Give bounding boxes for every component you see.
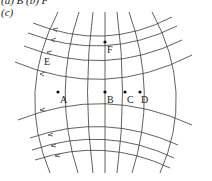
- point-labels: A B C D E F: [44, 44, 148, 105]
- arrow-left-icon: [40, 72, 45, 76]
- label-d: D: [141, 94, 148, 105]
- arrow-left-icon: [48, 133, 53, 136]
- field-diagram: A B C D E F: [0, 0, 212, 181]
- label-b: B: [107, 94, 114, 105]
- arrow-left-icon: [40, 108, 45, 111]
- label-f: F: [107, 44, 113, 55]
- label-a: A: [60, 94, 68, 105]
- label-e: E: [44, 56, 50, 67]
- label-c: C: [127, 94, 134, 105]
